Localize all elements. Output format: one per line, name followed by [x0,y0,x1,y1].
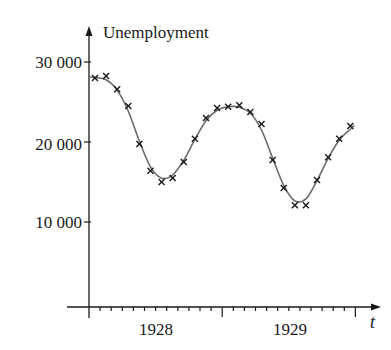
x-ticks [100,307,355,317]
y-axis-arrow-icon [86,26,93,36]
x-tick-label-1929: 1929 [273,320,307,339]
y-ticks [84,62,91,222]
y-tick-label-20000: 20 000 [35,135,82,154]
fitted-curve [90,77,354,202]
x-axis-label: t [370,312,376,332]
x-tick-label-1928: 1928 [139,320,173,339]
y-axis-label: Unemployment [103,23,209,42]
x-axis-arrow-icon [371,304,381,311]
y-tick-label-10000: 10 000 [35,213,82,232]
unemployment-chart: Unemployment t 30 000 20 000 10 000 1928… [0,0,391,350]
y-tick-label-30000: 30 000 [35,53,82,72]
data-markers [92,73,353,208]
